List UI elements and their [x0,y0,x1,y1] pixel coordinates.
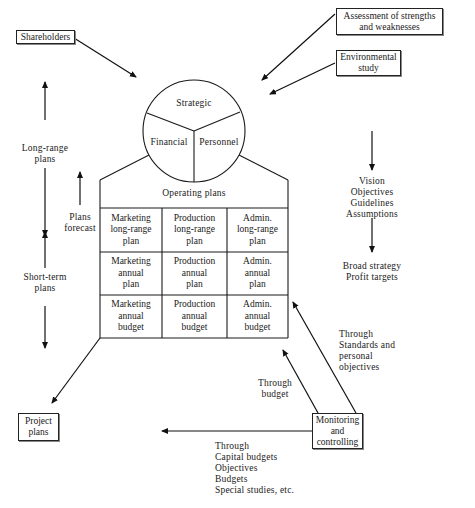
assessment-line-1: Assessment of strengths [344,11,436,22]
circle-personnel-label: Personnel [196,137,242,148]
grid-cell-marketing-annual-plan: Marketing annual plan [100,252,162,295]
grid-cell-production-annual-budget: Production annual budget [162,295,227,338]
project-plans-line-2: plans [28,427,48,438]
vision-objectives-list: Vision Objectives Guidelines Assumptions [340,176,404,220]
circle-financial-label: Financial [146,137,192,148]
environmental-box: Environmental study [336,50,401,76]
grid-cell-marketing-longrange: Marketing long-range plan [100,208,162,252]
project-plans-line-1: Project [25,416,52,427]
grid-cell-production-annual-plan: Production annual plan [162,252,227,295]
environmental-line-2: study [358,63,379,74]
grid-cell-production-longrange: Production long-range plan [162,208,227,252]
grid-cell-admin-longrange: Admin. long-range plan [227,208,288,252]
monitoring-box: Monitoring and controlling [312,413,363,449]
assessment-box: Assessment of strengths and weaknesses [336,8,443,35]
through-standards-label: Through Standards and personal objective… [339,329,395,373]
assessment-line-2: and weaknesses [359,22,419,33]
grid-cell-admin-annual-plan: Admin. annual plan [227,252,288,295]
monitoring-line-3: controlling [317,437,359,448]
environmental-line-1: Environmental [340,52,396,63]
shareholders-box: Shareholders [16,30,75,44]
plans-forecast-label: Plans forecast [60,212,100,234]
broad-strategy-list: Broad strategy Profit targets [336,261,408,283]
short-term-plans-label: Short-term plans [13,272,77,294]
grid-cell-marketing-annual-budget: Marketing annual budget [100,295,162,338]
monitoring-line-2: and [331,426,345,437]
grid-cell-admin-annual-budget: Admin. annual budget [227,295,288,338]
project-plans-box: Project plans [18,413,59,441]
long-range-plans-label: Long-range plans [13,143,77,165]
shareholders-label: Shareholders [21,32,71,43]
circle-strategic-label: Strategic [164,98,224,109]
through-budget-label: Through budget [254,378,296,400]
through-capital-budgets-label: Through Capital budgets Objectives Budge… [215,441,294,496]
monitoring-line-1: Monitoring [316,415,359,426]
operating-plans-title: Operating plans [100,188,288,199]
